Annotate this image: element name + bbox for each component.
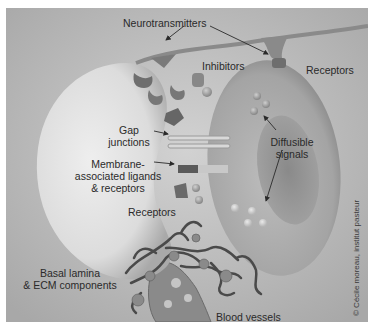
gap-junction — [168, 136, 230, 140]
label-gap-line1: Gap — [103, 124, 155, 136]
label-blood-vessels: Blood vessels — [216, 311, 281, 322]
label-gap-junctions: Gap junctions — [103, 124, 155, 148]
label-basal-line1: Basal lamina — [22, 267, 118, 279]
label-membrane-ligands: Membrane- associated ligands & receptors — [66, 158, 170, 194]
label-membrane-line3: & receptors — [66, 182, 170, 194]
label-membrane-line1: Membrane- — [66, 158, 170, 170]
label-basal-lamina: Basal lamina & ECM components — [22, 267, 118, 291]
receptor-top — [272, 58, 286, 68]
label-neurotransmitters: Neurotransmitters — [123, 17, 206, 29]
label-diffusible-line2: signals — [262, 148, 322, 160]
label-diffusible-line1: Diffusible — [262, 136, 322, 148]
membrane-receptor — [198, 165, 228, 173]
image-credit: © Cécile moreau, institut pasteur — [352, 200, 361, 316]
gap-junction — [168, 144, 230, 148]
label-receptors-top: Receptors — [306, 64, 354, 76]
membrane-ligand — [178, 165, 198, 173]
label-basal-line2: & ECM components — [22, 279, 118, 291]
label-gap-line2: junctions — [103, 136, 155, 148]
label-diffusible-signals: Diffusible signals — [262, 136, 322, 160]
diagram-panel: Neurotransmitters Inhibitors Receptors G… — [6, 8, 368, 322]
label-inhibitors: Inhibitors — [202, 60, 245, 72]
label-membrane-line2: associated ligands — [66, 170, 170, 182]
label-receptors-bottom: Receptors — [128, 206, 176, 218]
